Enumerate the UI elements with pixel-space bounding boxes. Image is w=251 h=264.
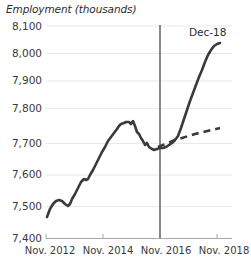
employment-chart: Employment (thousands) 8,100 8,000 7,900… xyxy=(0,0,251,264)
series-actual-employment xyxy=(47,43,220,217)
gridlines xyxy=(46,26,232,207)
series-trend-projection xyxy=(158,128,220,147)
x-axis-ticks xyxy=(46,234,217,239)
plot-area xyxy=(0,0,251,264)
